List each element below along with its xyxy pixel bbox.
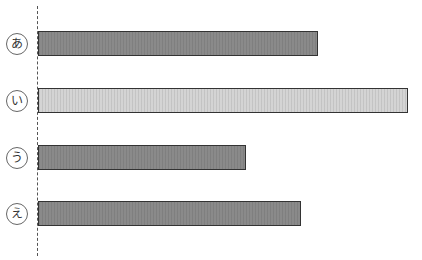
category-label: う — [6, 147, 28, 169]
bar-3 — [38, 145, 246, 170]
category-label: あ — [6, 33, 28, 55]
category-label: い — [6, 90, 28, 112]
bar-4 — [38, 201, 301, 226]
bar-1 — [38, 31, 318, 56]
category-label: え — [6, 203, 28, 225]
bar-2 — [38, 88, 408, 113]
